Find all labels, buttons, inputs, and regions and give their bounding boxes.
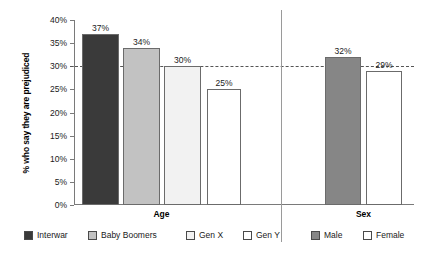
bar-value-label: 32% [334, 46, 351, 56]
y-tick-mark [70, 159, 74, 160]
bar-chart: % who say they are prejudiced 0%5%10%15%… [0, 0, 437, 255]
legend-label: Female [376, 230, 404, 240]
y-tick-label: 20% [50, 108, 67, 118]
y-tick-mark [70, 20, 74, 21]
bar: 34% [123, 48, 160, 205]
legend-label: Male [324, 230, 342, 240]
group-label-sex: Sex [356, 209, 371, 219]
bar-value-label: 29% [375, 60, 392, 70]
legend-item[interactable]: Gen Y [243, 230, 280, 240]
bar-value-label: 30% [174, 55, 191, 65]
bar: 25% [207, 89, 241, 205]
y-tick-label: 40% [50, 15, 67, 25]
legend-item[interactable]: Female [363, 230, 404, 240]
legend-item[interactable]: Gen X [186, 230, 223, 240]
y-tick-label: 25% [50, 84, 67, 94]
y-tick-mark [70, 89, 74, 90]
legend-label: Baby Boomers [101, 230, 157, 240]
legend-swatch-icon [186, 231, 195, 240]
bar-value-label: 37% [92, 23, 109, 33]
legend-label: Gen Y [256, 230, 280, 240]
bar-value-label: 34% [133, 37, 150, 47]
group-label-age: Age [153, 209, 169, 219]
legend-item[interactable]: Male [311, 230, 342, 240]
legend-swatch-icon [243, 231, 252, 240]
y-axis-title: % who say they are prejudiced [21, 23, 31, 203]
y-tick-mark [70, 113, 74, 114]
reference-line [70, 66, 414, 67]
y-tick-label: 10% [50, 154, 67, 164]
y-axis-line [74, 20, 75, 205]
bar: 29% [366, 71, 402, 205]
y-tick-label: 5% [55, 177, 67, 187]
y-tick-mark [70, 136, 74, 137]
legend-item[interactable]: Interwar [24, 230, 68, 240]
legend-swatch-icon [88, 231, 97, 240]
bar-value-label: 25% [215, 78, 232, 88]
legend-swatch-icon [311, 231, 320, 240]
y-tick-label: 0% [55, 200, 67, 210]
legend-label: Interwar [37, 230, 68, 240]
bar: 37% [82, 34, 119, 205]
plot-area: 0%5%10%15%20%25%30%35%40% 37%34%30%25%32… [74, 20, 414, 205]
legend-item[interactable]: Baby Boomers [88, 230, 157, 240]
y-tick-label: 15% [50, 131, 67, 141]
legend-label: Gen X [199, 230, 223, 240]
legend-swatch-icon [363, 231, 372, 240]
y-tick-label: 30% [50, 61, 67, 71]
bar: 30% [164, 66, 201, 205]
legend-swatch-icon [24, 231, 33, 240]
y-tick-mark [70, 205, 74, 206]
bar: 32% [325, 57, 361, 205]
y-tick-mark [70, 43, 74, 44]
group-divider [281, 10, 282, 242]
y-tick-label: 35% [50, 38, 67, 48]
y-tick-mark [70, 182, 74, 183]
